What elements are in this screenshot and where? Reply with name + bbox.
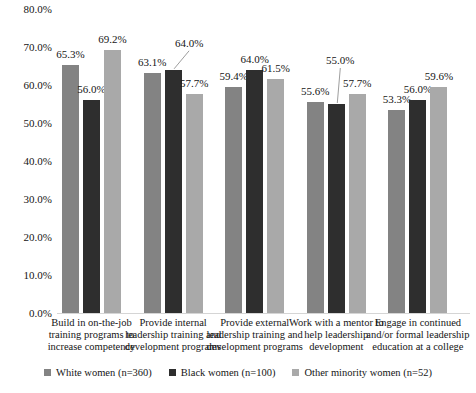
- bar-value-label: 57.7%: [169, 77, 219, 90]
- bar: [225, 87, 242, 313]
- bar-value-label: 61.5%: [251, 62, 301, 75]
- bar: [165, 70, 182, 313]
- y-axis-tick-label: 30.0%: [4, 193, 52, 206]
- bar-value-label: 65.3%: [46, 48, 96, 61]
- bar: [246, 70, 263, 313]
- bar: [62, 65, 79, 313]
- bar-value-label: 63.1%: [127, 56, 177, 69]
- legend-item: White women (n=360): [44, 366, 152, 379]
- legend-item: Other minority women (n=52): [292, 366, 432, 379]
- bar-value-label: 55.0%: [315, 54, 365, 67]
- y-axis-tick-label: 60.0%: [4, 79, 52, 92]
- bar: [307, 102, 324, 313]
- legend-swatch-icon: [169, 369, 176, 376]
- bar: [144, 73, 161, 313]
- bar: [328, 104, 345, 313]
- category-label: Engage in continued and/or formal leader…: [363, 317, 473, 354]
- bar-value-label: 64.0%: [164, 37, 214, 50]
- bar: [83, 100, 100, 313]
- legend-label: Other minority women (n=52): [304, 366, 432, 379]
- legend-label: White women (n=360): [56, 366, 152, 379]
- bar-value-label: 69.2%: [88, 33, 138, 46]
- bar: [388, 110, 405, 313]
- bar-value-label: 59.6%: [414, 70, 464, 83]
- y-axis-tick-label: 40.0%: [4, 155, 52, 168]
- y-axis-tick-label: 10.0%: [4, 269, 52, 282]
- legend: White women (n=360)Black women (n=100)Ot…: [0, 366, 476, 379]
- bar: [409, 100, 426, 313]
- x-axis-line: [57, 313, 470, 314]
- bar-value-label: 57.7%: [332, 77, 382, 90]
- legend-label: Black women (n=100): [181, 366, 276, 379]
- y-axis-tick-label: 20.0%: [4, 231, 52, 244]
- bar: [104, 50, 121, 313]
- legend-swatch-icon: [44, 369, 51, 376]
- bar-chart: 0.0%10.0%20.0%30.0%40.0%50.0%60.0%70.0%8…: [0, 0, 476, 393]
- y-axis-tick-label: 80.0%: [4, 3, 52, 16]
- bar: [186, 94, 203, 313]
- bar: [430, 87, 447, 313]
- bar: [349, 94, 366, 313]
- legend-item: Black women (n=100): [169, 366, 276, 379]
- legend-swatch-icon: [292, 369, 299, 376]
- bar: [267, 79, 284, 313]
- y-axis-tick-label: 50.0%: [4, 117, 52, 130]
